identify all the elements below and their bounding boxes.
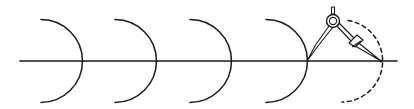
compass-icon bbox=[307, 7, 383, 63]
compass-construction-diagram bbox=[0, 0, 414, 109]
diagram-canvas bbox=[0, 0, 414, 109]
